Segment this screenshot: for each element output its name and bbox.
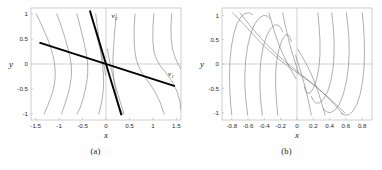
figure-container: -1.5-1-0.500.511.5-1-0.500.51v1v2xy (a) … <box>0 0 382 170</box>
svg-text:-0.5: -0.5 <box>77 122 88 129</box>
svg-text:-1: -1 <box>213 109 219 116</box>
svg-text:x: x <box>294 130 299 140</box>
svg-text:-0.6: -0.6 <box>243 122 254 129</box>
svg-text:-0.2: -0.2 <box>275 122 286 129</box>
svg-text:0.8: 0.8 <box>358 122 367 129</box>
svg-text:0.6: 0.6 <box>342 122 351 129</box>
svg-text:-1: -1 <box>56 122 62 129</box>
svg-text:1: 1 <box>25 10 29 17</box>
phase-portrait-b-svg: -0.8-0.6-0.4-0.200.20.40.60.8-1-0.500.51… <box>191 0 382 145</box>
svg-text:0.4: 0.4 <box>325 122 334 129</box>
svg-text:0: 0 <box>104 122 108 129</box>
svg-text:0: 0 <box>216 60 220 67</box>
panel-a: -1.5-1-0.500.511.5-1-0.500.51v1v2xy (a) <box>0 0 191 170</box>
plot-a-area: -1.5-1-0.500.511.5-1-0.500.51v1v2xy <box>0 0 191 145</box>
phase-portrait-a-svg: -1.5-1-0.500.511.5-1-0.500.51v1v2xy <box>0 0 191 145</box>
svg-text:-0.5: -0.5 <box>17 85 28 92</box>
svg-text:-0.8: -0.8 <box>226 122 237 129</box>
svg-text:y: y <box>199 59 204 69</box>
svg-text:0: 0 <box>295 122 299 129</box>
svg-text:x: x <box>103 130 108 140</box>
svg-text:0.5: 0.5 <box>125 122 134 129</box>
svg-text:-0.4: -0.4 <box>259 122 270 129</box>
svg-text:1.5: 1.5 <box>172 122 181 129</box>
svg-text:y: y <box>8 59 13 69</box>
svg-text:-0.5: -0.5 <box>208 85 219 92</box>
svg-text:1: 1 <box>151 122 155 129</box>
panel-b-caption: (b) <box>191 146 382 156</box>
svg-text:-1: -1 <box>22 110 28 117</box>
panel-a-caption: (a) <box>0 146 191 156</box>
svg-text:0: 0 <box>25 60 29 67</box>
svg-text:1: 1 <box>216 12 220 19</box>
svg-text:0.2: 0.2 <box>309 122 318 129</box>
svg-text:-1.5: -1.5 <box>30 122 41 129</box>
plot-b-area: -0.8-0.6-0.4-0.200.20.40.60.8-1-0.500.51… <box>191 0 382 145</box>
svg-text:0.5: 0.5 <box>19 35 28 42</box>
svg-text:0.5: 0.5 <box>210 36 219 43</box>
svg-text:1: 1 <box>171 74 173 79</box>
panel-b: -0.8-0.6-0.4-0.200.20.40.60.8-1-0.500.51… <box>191 0 382 170</box>
